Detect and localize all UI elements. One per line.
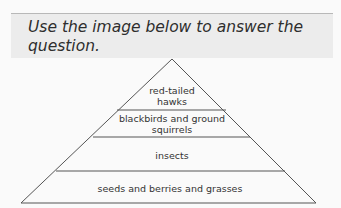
level-2-line-2: squirrels	[97, 124, 247, 135]
level-4-line-1: seeds and berries and grasses	[60, 183, 280, 194]
pyramid-level-3: insects	[97, 150, 247, 161]
pyramid-level-4: seeds and berries and grasses	[60, 183, 280, 194]
level-2-line-1: blackbirds and ground	[97, 113, 247, 124]
level-1-line-1: red-tailed	[122, 85, 222, 96]
pyramid-level-1: red-tailed hawks	[122, 85, 222, 107]
level-3-line-1: insects	[97, 150, 247, 161]
level-1-line-2: hawks	[122, 96, 222, 107]
pyramid-level-2: blackbirds and ground squirrels	[97, 113, 247, 135]
